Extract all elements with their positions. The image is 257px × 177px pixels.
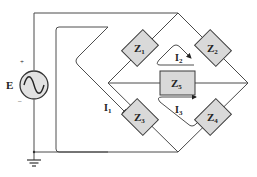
mesh-loop-i1: I1: [56, 27, 127, 152]
impedance-z3: Z3: [122, 99, 159, 136]
impedance-z1: Z1: [122, 30, 159, 67]
mesh-loop-i2: I2: [157, 45, 194, 65]
current-label-i1: I1: [104, 102, 112, 115]
source-label: E: [6, 79, 13, 91]
current-label-i2: I2: [175, 52, 183, 65]
ac-voltage-source: + – E: [6, 58, 48, 105]
bridge-network-diagram: + – E I1 I2 I3 Z1 Z2 Z3 Z4 Z5: [0, 0, 257, 177]
minus-sign: –: [17, 97, 22, 105]
plus-sign: +: [20, 58, 24, 66]
impedance-z5: Z5: [160, 71, 195, 95]
